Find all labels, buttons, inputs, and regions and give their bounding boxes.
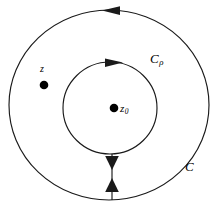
point-marker-z0 [110, 104, 119, 113]
label-point-z-text: z [40, 63, 44, 74]
point-marker-z [40, 81, 49, 90]
label-outer-contour-text: C [185, 159, 194, 174]
cut-segment-down-arrow-icon [105, 156, 119, 170]
label-outer-contour-c: C [185, 160, 194, 173]
label-point-z0-base: z [120, 102, 124, 114]
label-point-z0-subscript: 0 [125, 107, 129, 116]
label-point-z0: z0 [120, 103, 129, 116]
label-inner-contour-base: C [150, 51, 159, 66]
outer-circle-direction-arrow-icon [102, 6, 120, 15]
contour-diagram-canvas [0, 0, 224, 208]
label-inner-contour-subscript: ρ [159, 57, 163, 67]
outer-circle-C [9, 10, 209, 200]
label-inner-contour-c-rho: Cρ [150, 52, 163, 67]
cut-segment-up-arrow-icon [105, 178, 119, 192]
inner-circle-direction-arrow-icon [105, 58, 123, 67]
label-point-z: z [40, 64, 44, 74]
contour-figure: Cρ C z z0 [0, 0, 224, 208]
